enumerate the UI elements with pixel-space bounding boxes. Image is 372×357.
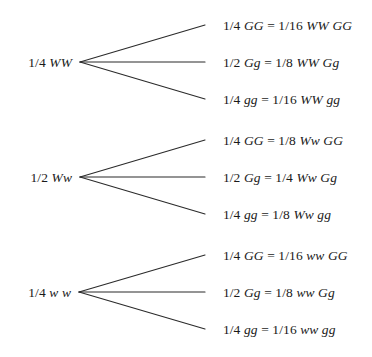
result-genotype-g2-b3: Ww gg [293, 206, 331, 221]
result-genotype-g1-b2: WW Gg [296, 54, 339, 69]
parent-node-label-group-1: 1/4 WW [14, 42, 72, 83]
equals-sign-g1-b2: = [264, 54, 272, 69]
outcome-genotype-g3-b1: GG [244, 247, 264, 262]
outcome-fraction-g3-b3: 1/4 [223, 321, 241, 336]
parent-fraction-group-2: 1/2 [31, 169, 49, 184]
result-genotype-g3-b2: ww Gg [296, 284, 334, 299]
outcome-genotype-g2-b3: gg [244, 206, 258, 221]
outcome-fraction-g3-b2: 1/2 [223, 284, 241, 299]
outcome-genotype-g2-b2: Gg [244, 169, 261, 184]
equals-sign-g2-b3: = [261, 206, 269, 221]
parent-genotype-group-3: w w [49, 284, 71, 299]
outcome-label-g1-b3: 1/4 gg = 1/16 WW gg [209, 79, 340, 120]
outcome-label-g2-b1: 1/4 GG = 1/8 Ww GG [209, 120, 343, 161]
branch-line-g3-b1 [79, 255, 205, 292]
result-genotype-g3-b1: ww GG [306, 247, 347, 262]
outcome-genotype-g3-b2: Gg [244, 284, 261, 299]
branch-line-g2-b1 [80, 140, 205, 177]
result-fraction-g2-b3: 1/8 [272, 206, 290, 221]
outcome-fraction-g2-b3: 1/4 [223, 206, 241, 221]
outcome-genotype-g1-b2: Gg [244, 54, 261, 69]
parent-fraction-group-3: 1/4 [28, 284, 46, 299]
result-genotype-g3-b3: ww gg [300, 321, 335, 336]
outcome-fraction-g2-b1: 1/4 [223, 132, 241, 147]
outcome-genotype-g1-b3: gg [244, 91, 258, 106]
equals-sign-g3-b3: = [261, 321, 269, 336]
parent-genotype-group-1: WW [49, 54, 72, 69]
outcome-label-g3-b3: 1/4 gg = 1/16 ww gg [209, 309, 336, 350]
outcome-label-g1-b2: 1/2 Gg = 1/8 WW Gg [209, 42, 339, 83]
result-fraction-g1-b1: 1/16 [278, 17, 302, 32]
branch-line-g3-b3 [79, 292, 205, 329]
outcome-fraction-g1-b1: 1/4 [223, 17, 241, 32]
parent-genotype-group-2: Ww [52, 169, 72, 184]
result-genotype-g1-b1: WW GG [306, 17, 352, 32]
outcome-label-g1-b1: 1/4 GG = 1/16 WW GG [209, 5, 352, 46]
outcome-genotype-g1-b1: GG [244, 17, 264, 32]
outcome-fraction-g2-b2: 1/2 [223, 169, 241, 184]
outcome-fraction-g3-b1: 1/4 [223, 247, 241, 262]
result-genotype-g2-b2: Ww Gg [296, 169, 337, 184]
branch-line-g1-b1 [80, 25, 205, 62]
equals-sign-g2-b1: = [267, 132, 275, 147]
outcome-fraction-g1-b3: 1/4 [223, 91, 241, 106]
parent-node-label-group-2: 1/2 Ww [17, 157, 72, 198]
branch-line-g1-b3 [80, 62, 205, 99]
result-fraction-g1-b3: 1/16 [272, 91, 296, 106]
parent-fraction-group-1: 1/4 [28, 54, 46, 69]
result-fraction-g3-b1: 1/16 [278, 247, 302, 262]
equals-sign-g2-b2: = [264, 169, 272, 184]
branch-line-g2-b3 [80, 177, 205, 214]
result-fraction-g3-b3: 1/16 [272, 321, 296, 336]
result-genotype-g1-b3: WW gg [300, 91, 340, 106]
outcome-label-g2-b2: 1/2 Gg = 1/4 Ww Gg [209, 157, 337, 198]
outcome-label-g3-b2: 1/2 Gg = 1/8 ww Gg [209, 272, 335, 313]
outcome-genotype-g3-b3: gg [244, 321, 258, 336]
equals-sign-g3-b1: = [267, 247, 275, 262]
probability-tree-diagram: 1/4 WW 1/4 GG = 1/16 WW GG 1/2 Gg = 1/8 … [0, 0, 372, 357]
outcome-genotype-g2-b1: GG [244, 132, 264, 147]
outcome-label-g3-b1: 1/4 GG = 1/16 ww GG [209, 235, 348, 276]
equals-sign-g1-b1: = [267, 17, 275, 32]
result-genotype-g2-b1: Ww GG [299, 132, 343, 147]
result-fraction-g2-b1: 1/8 [278, 132, 296, 147]
equals-sign-g1-b3: = [261, 91, 269, 106]
result-fraction-g2-b2: 1/4 [275, 169, 293, 184]
equals-sign-g3-b2: = [264, 284, 272, 299]
result-fraction-g3-b2: 1/8 [275, 284, 293, 299]
outcome-fraction-g1-b2: 1/2 [223, 54, 241, 69]
outcome-label-g2-b3: 1/4 gg = 1/8 Ww gg [209, 194, 331, 235]
result-fraction-g1-b2: 1/8 [275, 54, 293, 69]
parent-node-label-group-3: 1/4 w w [14, 272, 71, 313]
